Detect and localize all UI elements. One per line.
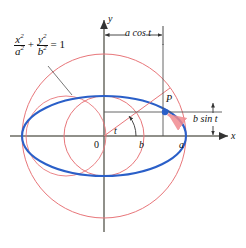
a-cos-t-label: a cos t <box>125 27 151 38</box>
angle-arc <box>129 116 136 136</box>
point-p-label: P <box>166 93 172 104</box>
y-term-fraction: y2 b2 <box>37 34 48 57</box>
equals-one: = 1 <box>50 38 64 50</box>
angle-label-t: t <box>114 125 117 136</box>
tick-label-a: a <box>179 139 184 150</box>
ellipse-equation-label: x2 a2 + y2 b2 = 1 <box>14 34 65 57</box>
plus-sign: + <box>28 38 34 50</box>
x-term-fraction: x2 a2 <box>14 34 25 57</box>
point-p-marker <box>162 109 168 115</box>
equation-leader-line <box>48 66 72 95</box>
y-axis-label: y <box>108 13 112 24</box>
tick-label-b: b <box>139 139 144 150</box>
x-axis-label: x <box>231 130 235 141</box>
origin-label: 0 <box>94 139 99 150</box>
b-sin-t-label: b sin t <box>193 113 217 124</box>
